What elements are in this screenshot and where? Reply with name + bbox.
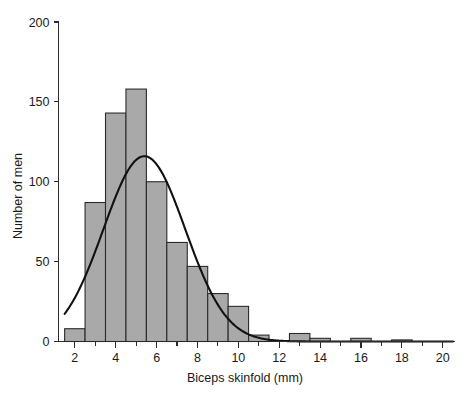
- histogram-bar: [65, 329, 85, 342]
- y-tick-label: 100: [29, 175, 50, 189]
- x-tick-label: 8: [194, 351, 201, 365]
- histogram-bar: [106, 113, 126, 341]
- histogram-bars: [65, 89, 412, 341]
- histogram-bar: [146, 182, 166, 342]
- y-tick-label: 0: [43, 335, 50, 349]
- histogram-figure: 0501001502002468101214161820 Biceps skin…: [0, 0, 468, 395]
- x-tick-label: 14: [313, 351, 327, 365]
- chart-canvas: 0501001502002468101214161820 Biceps skin…: [0, 0, 468, 395]
- histogram-bar: [228, 306, 248, 341]
- x-axis-title: Biceps skinfold (mm): [187, 371, 303, 385]
- x-tick-label: 18: [395, 351, 409, 365]
- x-tick-label: 16: [354, 351, 368, 365]
- x-tick-label: 12: [272, 351, 286, 365]
- x-tick-label: 4: [112, 351, 119, 365]
- y-tick-label: 50: [36, 255, 50, 269]
- y-tick-label: 150: [29, 95, 50, 109]
- histogram-bar: [208, 294, 228, 342]
- histogram-bar: [167, 242, 187, 341]
- x-tick-label: 10: [231, 351, 245, 365]
- histogram-bar: [126, 89, 146, 341]
- y-axis-title: Number of men: [11, 153, 25, 239]
- x-tick-label: 20: [436, 351, 450, 365]
- x-tick-label: 2: [71, 351, 78, 365]
- y-tick-label: 200: [29, 16, 50, 30]
- x-tick-label: 6: [153, 351, 160, 365]
